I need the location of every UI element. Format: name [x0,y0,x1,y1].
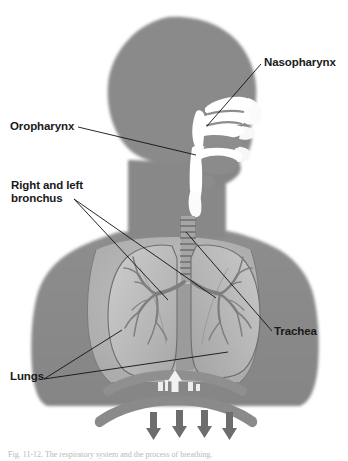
label-oropharynx: Oropharynx [10,120,74,133]
label-nasopharynx: Nasopharynx [264,56,336,69]
respiratory-system-figure: Nasopharynx Oropharynx Right and left br… [0,0,348,461]
anatomy-illustration [0,0,348,461]
label-lungs: Lungs [10,370,44,383]
figure-caption: Fig. 11-12. The respiratory system and t… [8,450,340,461]
label-right-and-left-bronchus: Right and left bronchus [11,179,83,205]
tongue [200,156,238,175]
label-trachea: Trachea [274,325,317,338]
